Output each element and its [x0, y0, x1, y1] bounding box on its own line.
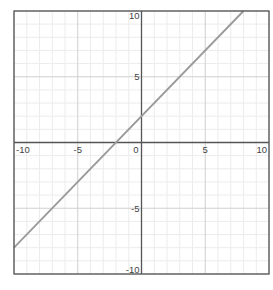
y-tick-label: -5	[131, 203, 139, 214]
y-tick-label: 10	[129, 10, 140, 21]
coordinate-plane: -10-50510105-5-10	[0, 0, 273, 290]
y-tick-label: 5	[134, 71, 139, 82]
x-tick-label: 10	[256, 144, 267, 155]
x-tick-label: 0	[133, 144, 138, 155]
x-tick-label: -10	[16, 144, 30, 155]
y-tick-label: -10	[126, 264, 140, 275]
x-tick-label: -5	[74, 144, 82, 155]
x-tick-label: 5	[203, 144, 208, 155]
